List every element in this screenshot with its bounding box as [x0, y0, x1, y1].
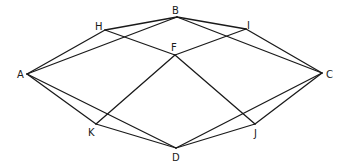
point-label-b: B [172, 5, 179, 16]
edge-i-c [246, 29, 322, 73]
point-label-j: J [253, 128, 257, 139]
point-label-c: C [326, 69, 333, 80]
edge-j-c [255, 73, 322, 124]
point-label-a: A [17, 69, 24, 80]
point-label-f: F [171, 42, 177, 53]
edge-i-f [175, 29, 246, 55]
point-label-h: H [95, 21, 103, 32]
edge-d-c [176, 73, 322, 148]
point-label-d: D [172, 152, 180, 163]
point-label-k: K [88, 127, 95, 138]
edges-group [27, 17, 322, 148]
edge-f-k [96, 55, 175, 124]
labels-group: ABCDFHIJK [17, 5, 333, 163]
edge-a-k [27, 74, 96, 124]
edge-b-i [177, 17, 246, 29]
edge-a-h [27, 30, 105, 74]
geometry-diagram: ABCDFHIJK [0, 0, 344, 168]
edge-a-d [27, 74, 176, 148]
edge-h-b [105, 17, 177, 30]
point-label-i: I [247, 20, 250, 31]
edge-h-f [105, 30, 175, 55]
diagram-canvas: ABCDFHIJK [0, 0, 344, 168]
